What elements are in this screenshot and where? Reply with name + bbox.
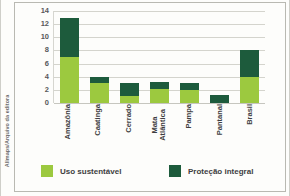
- bar-slot: [144, 11, 174, 103]
- plot-area: [53, 11, 265, 103]
- bar-segment-protecao-integral: [240, 50, 259, 76]
- x-tick-slot: Pampa: [174, 104, 204, 156]
- y-axis: 14121086420: [35, 11, 51, 103]
- bar-stack[interactable]: [180, 83, 199, 103]
- bar-stack[interactable]: [90, 77, 109, 103]
- bar-segment-protecao-integral: [150, 82, 169, 89]
- bar-stack[interactable]: [120, 83, 139, 103]
- x-tick-slot: Amazônia: [53, 104, 83, 156]
- bar-slot: [235, 11, 265, 103]
- y-tick-label: 10: [41, 34, 49, 42]
- bar-segment-uso-sustentavel: [60, 57, 79, 103]
- x-tick-slot: Pantanal: [204, 104, 234, 156]
- y-tick-label: 2: [45, 86, 49, 94]
- y-tick-label: 14: [41, 7, 49, 15]
- x-tick-slot: Mata Atlântica: [144, 104, 174, 156]
- y-tick-label: 8: [45, 47, 49, 55]
- image-credit: Allmaps/Arquivo da editora: [1, 92, 13, 192]
- bar-segment-uso-sustentavel: [180, 90, 199, 103]
- bar-slot: [114, 11, 144, 103]
- bar-stack[interactable]: [150, 82, 169, 103]
- legend-swatch-icon: [169, 165, 181, 177]
- bar-slot: [175, 11, 205, 103]
- x-tick-label: Pampa: [185, 104, 193, 129]
- legend-label: Proteção integral: [188, 167, 253, 176]
- bar-segment-uso-sustentavel: [90, 83, 109, 103]
- y-tick-label: 0: [45, 99, 49, 107]
- plot-region: 14121086420: [35, 11, 265, 103]
- x-tick-label: Pantanal: [216, 104, 224, 135]
- bar-slot: [54, 11, 84, 103]
- bar-segment-uso-sustentavel: [150, 89, 169, 103]
- scan-edge-right: [289, 0, 290, 196]
- bar-segment-protecao-integral: [210, 95, 229, 103]
- legend-item[interactable]: Uso sustentável: [41, 165, 169, 177]
- bar-segment-protecao-integral: [120, 83, 139, 96]
- chart-legend: Uso sustentávelProteção integral: [41, 165, 273, 177]
- bar-segment-uso-sustentavel: [120, 96, 139, 103]
- x-tick-slot: Brasil: [235, 104, 265, 156]
- x-tick-slot: Cerrado: [114, 104, 144, 156]
- x-tick-label: Brasil: [246, 104, 254, 125]
- y-tick-label: 6: [45, 60, 49, 68]
- legend-item[interactable]: Proteção integral: [169, 165, 253, 177]
- x-tick-label: Mata Atlântica: [151, 104, 166, 146]
- bar-stack[interactable]: [240, 50, 259, 103]
- bar-stack[interactable]: [60, 18, 79, 103]
- bar-segment-uso-sustentavel: [240, 77, 259, 103]
- x-axis: AmazôniaCaatingaCerradoMata AtlânticaPam…: [53, 104, 265, 156]
- x-tick-label: Cerrado: [125, 104, 133, 133]
- bar-stack[interactable]: [210, 95, 229, 103]
- x-tick-label: Caatinga: [95, 104, 103, 136]
- image-credit-text: Allmaps/Arquivo da editora: [4, 95, 10, 168]
- chart-figure: Allmaps/Arquivo da editora 14121086420 A…: [0, 0, 290, 196]
- y-tick-label: 12: [41, 20, 49, 28]
- bar-slot: [205, 11, 235, 103]
- bar-slot: [84, 11, 114, 103]
- y-tick-label: 4: [45, 73, 49, 81]
- bar-segment-protecao-integral: [60, 18, 79, 57]
- bar-series-group: [54, 11, 265, 103]
- x-tick-label: Amazônia: [64, 104, 72, 139]
- chart-card: 14121086420 AmazôniaCaatingaCerradoMata …: [14, 2, 286, 192]
- x-tick-slot: Caatinga: [83, 104, 113, 156]
- bar-segment-protecao-integral: [180, 83, 199, 90]
- legend-label: Uso sustentável: [60, 167, 121, 176]
- legend-swatch-icon: [41, 165, 53, 177]
